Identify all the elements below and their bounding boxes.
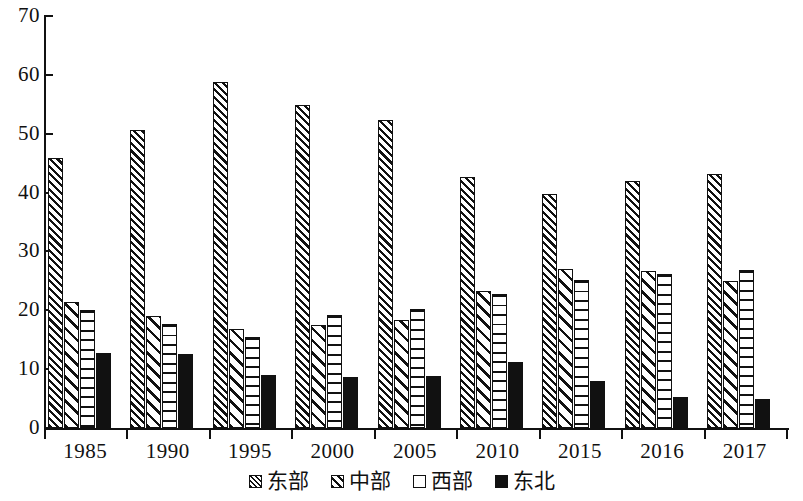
legend-label: 东北: [513, 470, 555, 492]
x-axis-tick: [44, 430, 46, 439]
bar: [245, 337, 260, 428]
legend-item: 东北: [495, 470, 555, 492]
bar: [657, 274, 672, 428]
x-axis-tick: [291, 430, 293, 439]
bar: [755, 399, 770, 428]
bar: [574, 280, 589, 428]
x-axis-tick: [209, 430, 211, 439]
x-axis-tick-label: 2016: [617, 440, 707, 462]
bar-group: [295, 16, 358, 428]
legend-label: 中部: [349, 470, 391, 492]
legend-item: 西部: [413, 470, 473, 492]
y-axis-tick-label: 30: [4, 240, 40, 261]
bar: [625, 181, 640, 428]
legend-swatch-icon: [249, 475, 262, 488]
bar: [64, 302, 79, 428]
x-axis-tick: [539, 430, 541, 439]
bar-chart: 010203040506070 198519901995200020052010…: [0, 0, 803, 501]
y-axis-tick-label: 20: [4, 299, 40, 320]
x-axis-tick: [126, 430, 128, 439]
x-axis-tick: [456, 430, 458, 439]
legend-item: 中部: [331, 470, 391, 492]
legend-swatch-icon: [495, 475, 508, 488]
x-axis-line: [44, 428, 789, 430]
bar-group: [378, 16, 441, 428]
bar-group: [48, 16, 111, 428]
x-axis-tick-label: 2000: [288, 440, 378, 462]
bar: [295, 105, 310, 428]
x-axis-tick-label: 2015: [535, 440, 625, 462]
bar-group: [130, 16, 193, 428]
bar: [178, 354, 193, 428]
bar-group: [542, 16, 605, 428]
y-axis-tick-label: 50: [4, 123, 40, 144]
legend-swatch-icon: [413, 475, 426, 488]
bar-group: [625, 16, 688, 428]
bar: [48, 158, 63, 428]
y-axis-tick-label: 40: [4, 182, 40, 203]
bar: [707, 174, 722, 428]
x-axis-tick-label: 1985: [40, 440, 130, 462]
bar: [673, 397, 688, 428]
bar: [80, 310, 95, 428]
x-axis-tick-label: 1990: [123, 440, 213, 462]
bar: [641, 271, 656, 428]
y-axis-tick-label: 60: [4, 64, 40, 85]
bar: [590, 381, 605, 428]
bar: [378, 120, 393, 428]
bar: [508, 362, 523, 429]
bar: [558, 269, 573, 428]
bar: [213, 82, 228, 428]
legend-label: 东部: [267, 470, 309, 492]
legend-label: 西部: [431, 470, 473, 492]
x-axis-tick: [621, 430, 623, 439]
x-axis-tick-label: 1995: [205, 440, 295, 462]
bar: [229, 329, 244, 428]
x-axis-tick-label: 2017: [700, 440, 790, 462]
legend-item: 东部: [249, 470, 309, 492]
x-axis-tick: [704, 430, 706, 439]
x-axis-tick-label: 2005: [370, 440, 460, 462]
bar: [343, 377, 358, 428]
bar: [327, 315, 342, 428]
bar: [311, 325, 326, 428]
bar: [492, 294, 507, 428]
bar: [394, 320, 409, 428]
y-axis-tick-label: 70: [4, 5, 40, 26]
bar: [261, 375, 276, 428]
bar: [426, 376, 441, 428]
bar-group: [213, 16, 276, 428]
bar: [476, 291, 491, 428]
y-axis-tick-label: 0: [4, 417, 40, 438]
bar: [162, 324, 177, 428]
bar: [542, 194, 557, 428]
x-axis-tick: [374, 430, 376, 439]
legend-swatch-icon: [331, 475, 344, 488]
bar-group: [460, 16, 523, 428]
bar: [96, 353, 111, 428]
bar: [460, 177, 475, 428]
bar: [739, 270, 754, 428]
y-axis-tick-label: 10: [4, 358, 40, 379]
x-axis-tick: [786, 430, 788, 439]
bar: [723, 281, 738, 428]
plot-area: [44, 16, 786, 428]
x-axis-tick-label: 2010: [452, 440, 542, 462]
y-axis-labels: 010203040506070: [0, 0, 40, 440]
bar-group: [707, 16, 770, 428]
chart-legend: 东部中部西部东北: [0, 470, 803, 492]
bar: [130, 130, 145, 428]
bar: [146, 316, 161, 428]
bar: [410, 309, 425, 428]
